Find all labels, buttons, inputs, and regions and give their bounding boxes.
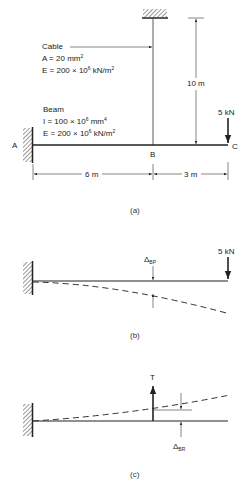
point-b-label: B <box>150 150 155 159</box>
load-b-label: 5 kN <box>218 247 235 256</box>
deflected-shape-c <box>33 395 230 421</box>
wall-b-hatch <box>23 262 32 294</box>
figure-b: ΔBP 5 kN (b) <box>23 247 235 340</box>
cable-label: Cable <box>42 42 63 51</box>
beam-label: Beam <box>43 105 64 114</box>
ceiling-support-hatch <box>143 9 167 17</box>
beam-modulus: E = 200 × 106 kN/m2 <box>43 128 116 138</box>
tension-label: T <box>150 373 155 382</box>
delta-bp-label: ΔBP <box>144 255 157 265</box>
load-label: 5 kN <box>218 108 235 117</box>
cable-length-label: 10 m <box>187 79 205 88</box>
caption-a: (a) <box>130 206 140 215</box>
wall-c-hatch <box>23 404 32 436</box>
figure-c: T ΔBR (c) <box>23 373 230 479</box>
beam-cable-diagram: Cable A = 20 mm2 E = 200 × 106 kN/m2 10 … <box>0 0 248 492</box>
beam-inertia: I = 100 × 106 mm4 <box>43 116 107 126</box>
cable-area: A = 20 mm2 <box>42 53 83 63</box>
span-ab-label: 6 m <box>85 170 99 179</box>
delta-br-label: ΔBR <box>173 442 186 452</box>
deflected-shape-b <box>33 282 230 314</box>
caption-c: (c) <box>130 470 140 479</box>
cable-modulus: E = 200 × 106 kN/m2 <box>42 65 115 75</box>
point-a-label: A <box>12 141 18 150</box>
span-bc-label: 3 m <box>184 170 198 179</box>
point-c-label: C <box>232 142 238 151</box>
figure-a: Cable A = 20 mm2 E = 200 × 106 kN/m2 10 … <box>12 9 238 215</box>
caption-b: (b) <box>130 331 140 340</box>
wall-a-hatch <box>23 128 32 162</box>
